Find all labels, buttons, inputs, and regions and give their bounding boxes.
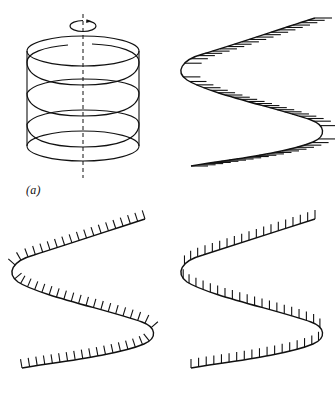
tick-mark [35, 281, 38, 289]
tick-mark [123, 307, 126, 316]
tick-mark [62, 237, 65, 246]
tick-mark [104, 346, 106, 355]
tick-mark [93, 299, 95, 308]
panel-a-label: (a) [26, 183, 41, 198]
helix-projection-curve-d [181, 219, 323, 368]
tick-mark [120, 218, 123, 227]
helix-back-arc-1 [92, 44, 139, 62]
tick-mark [64, 291, 67, 300]
tick-mark [111, 344, 113, 353]
tick-mark [21, 276, 25, 284]
panel-b-horizontal-ticks: (b) [167, 0, 335, 178]
tick-mark [71, 293, 73, 302]
tick-mark [8, 259, 15, 265]
panel-d-svg [167, 205, 335, 375]
tick-mark [56, 288, 59, 297]
tick-mark [126, 341, 128, 350]
tick-mark [106, 222, 109, 231]
tick-mark [91, 227, 94, 236]
tick-mark [79, 295, 81, 304]
tick-mark [145, 315, 149, 323]
tick-mark [133, 339, 136, 348]
tick-mark [139, 336, 142, 344]
tick-mark [89, 348, 91, 357]
tick-mark [138, 312, 141, 321]
tick-mark [59, 353, 60, 362]
tick-mark [49, 286, 52, 295]
tick-mark [55, 239, 58, 248]
tick-marks-perpendicular [8, 210, 158, 368]
tick-mark [116, 305, 118, 314]
tick-mark [36, 357, 37, 366]
tick-mark [74, 351, 75, 360]
tick-mark [47, 241, 50, 250]
tick-mark [15, 273, 22, 279]
tick-mark [113, 220, 116, 229]
tick-mark [130, 310, 133, 319]
tick-mark [33, 246, 36, 255]
tick-mark [28, 358, 29, 367]
panel-d-vertical-ticks: (d) [167, 205, 335, 375]
tick-mark [151, 322, 158, 328]
panel-b-svg [167, 0, 335, 178]
tick-mark [96, 347, 98, 356]
tick-mark [84, 230, 87, 239]
tick-mark [86, 297, 88, 306]
tick-mark [66, 352, 67, 361]
rotation-arrow-head [86, 19, 92, 23]
tick-mark [142, 210, 145, 219]
tick-mark [76, 232, 79, 241]
tick-mark [42, 284, 45, 293]
tick-mark [144, 334, 150, 341]
tick-mark [135, 213, 138, 222]
tick-marks-vertical [183, 210, 320, 368]
tick-mark [25, 249, 28, 257]
tick-mark [40, 244, 43, 253]
tick-mark [17, 252, 22, 260]
panel-a-cylinder-helix: (a) [0, 0, 167, 178]
panel-c-perpendicular-ticks: (c) [0, 205, 167, 375]
tick-mark [101, 301, 103, 310]
tick-mark [118, 342, 120, 351]
panel-a-svg [0, 0, 167, 178]
helix-projection-curve-c [12, 219, 154, 368]
tick-mark [128, 215, 131, 224]
tick-mark [51, 354, 52, 363]
tick-mark [27, 279, 31, 287]
helix-entry-arc [27, 45, 68, 62]
tick-mark [69, 234, 72, 243]
tick-mark [43, 356, 44, 365]
panel-c-svg [0, 205, 167, 375]
tick-mark [98, 225, 101, 234]
tick-mark [108, 303, 110, 312]
tick-mark [81, 350, 82, 359]
tick-mark [21, 359, 22, 368]
figure-root: (a) (b) (c) (d) [0, 0, 335, 405]
helix-projection-curve-b [181, 18, 323, 166]
tick-marks-horizontal [183, 18, 335, 166]
